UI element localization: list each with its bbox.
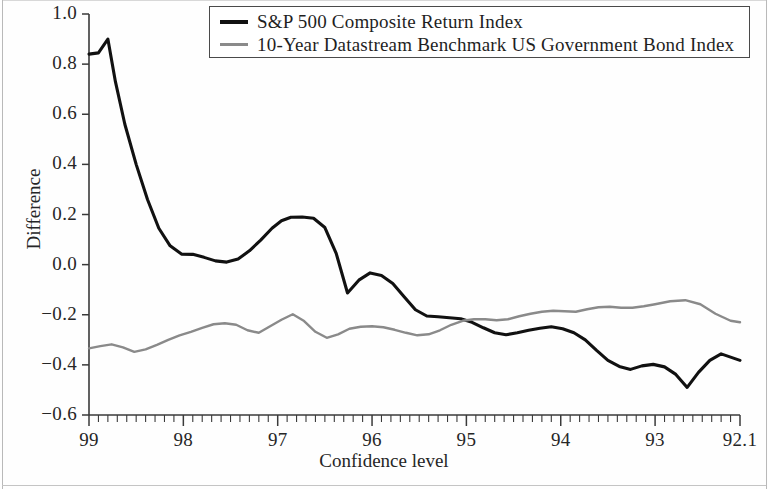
- gray-line-swatch-icon: [220, 43, 248, 46]
- y-tick-label: 0.8: [15, 52, 77, 74]
- y-tick-label: −0.6: [15, 403, 77, 425]
- x-tick-label: 93: [620, 429, 690, 451]
- y-tick-label: 0.6: [15, 102, 77, 124]
- x-tick-label: 98: [148, 429, 218, 451]
- chart-plot-area: [0, 0, 768, 489]
- legend-item-sp500: S&P 500 Composite Return Index: [220, 10, 741, 33]
- series-layer: [89, 39, 740, 387]
- axis-layer: [82, 14, 740, 426]
- x-tick-label: 97: [243, 429, 313, 451]
- x-tick-label: 95: [431, 429, 501, 451]
- y-axis-title: Difference: [23, 139, 45, 279]
- chart-legend: S&P 500 Composite Return Index 10-Year D…: [209, 6, 750, 58]
- legend-label-sp500: S&P 500 Composite Return Index: [257, 12, 523, 31]
- x-axis-title: Confidence level: [0, 450, 768, 472]
- y-tick-label: −0.2: [15, 303, 77, 325]
- figure-container: 1.00.80.60.40.20.0−0.2−0.4−0.6 999897969…: [0, 0, 768, 489]
- y-tick-label: −0.4: [15, 353, 77, 375]
- x-tick-label: 94: [526, 429, 596, 451]
- legend-item-bond: 10-Year Datastream Benchmark US Governme…: [220, 33, 741, 56]
- x-tick-label: 99: [54, 429, 124, 451]
- black-line-swatch-icon: [220, 20, 248, 24]
- x-tick-label: 92.1: [705, 429, 768, 451]
- legend-label-bond: 10-Year Datastream Benchmark US Governme…: [257, 35, 734, 54]
- x-tick-label: 96: [337, 429, 407, 451]
- y-tick-label: 1.0: [15, 2, 77, 24]
